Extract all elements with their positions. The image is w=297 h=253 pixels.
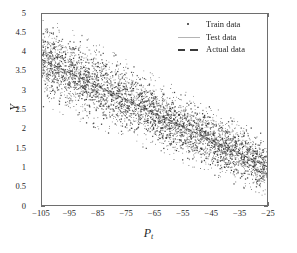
x-tick-label: −45 [196,209,226,218]
y-tick-mark [264,206,268,207]
x-axis-label-base: P [144,226,151,240]
legend-item-test-data: Test data [176,32,276,44]
y-tick-label: 1 [22,163,26,172]
y-tick-mark [41,206,45,207]
x-tick-label: −75 [111,209,141,218]
x-tick-label: −35 [225,209,255,218]
legend-label-train-data: Train data [202,19,240,30]
x-tick-label: −55 [168,209,198,218]
y-tick-label: 4 [22,47,26,56]
x-tick-mark [268,202,269,206]
y-tick-label: 5 [22,9,26,18]
x-tick-label: −65 [140,209,170,218]
y-tick-label: 1.5 [15,144,26,153]
legend-item-train-data: Train data [176,19,276,31]
x-tick-label: −25 [253,209,283,218]
legend-label-actual-data: Actual data [202,44,245,55]
y-axis-label: Y [7,88,22,128]
y-tick-label: 0.5 [15,182,26,191]
dot-marker-icon [176,19,202,30]
legend-item-actual-data: Actual data [176,44,276,56]
y-tick-label: 3.5 [15,66,26,75]
x-tick-label: −85 [83,209,113,218]
solid-line-icon [176,32,202,43]
legend: Train data Test data Actual data [176,19,276,57]
x-tick-label: −105 [26,209,56,218]
legend-label-test-data: Test data [202,32,236,43]
x-axis-label-subscript: t [151,232,153,241]
y-tick-label: 2 [22,124,26,133]
y-tick-label: 4.5 [15,28,26,37]
dashed-line-icon [176,44,202,55]
y-tick-label: 3 [22,86,26,95]
x-tick-mark [268,13,269,17]
x-axis-label: Pt [0,226,297,241]
x-tick-label: −95 [54,209,84,218]
scatter-plot-figure: 00.511.522.533.544.55 −105−95−85−75−65−5… [0,0,297,253]
